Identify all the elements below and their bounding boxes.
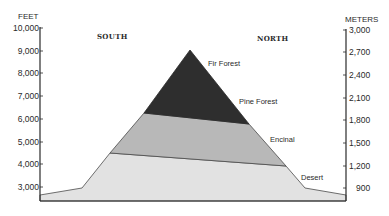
left-axis-title: FEET	[18, 12, 39, 21]
right-tick-label: 1,800	[349, 115, 371, 125]
fir-forest-label: Fir Forest	[208, 59, 241, 68]
left-tick-label: 6,000	[18, 114, 40, 124]
left-tick-label: 3,000	[18, 182, 40, 192]
desert-label: Desert	[301, 173, 324, 182]
left-tick-label: 9,000	[18, 46, 40, 56]
right-tick-label: 3,000	[349, 25, 371, 35]
south-label: SOUTH	[97, 32, 128, 41]
vegetation-zone-diagram: FEET METERS 10,000 9,000 8,000 7,000 6,0…	[0, 0, 389, 216]
north-label: NORTH	[257, 34, 289, 43]
right-tick-label: 1,500	[349, 138, 371, 148]
right-tick-label: 2,400	[349, 70, 371, 80]
right-tick-label: 1,200	[349, 161, 371, 171]
right-axis-title: METERS	[345, 15, 378, 24]
left-tick-label: 4,000	[18, 159, 40, 169]
right-tick-label: 900	[356, 183, 370, 193]
left-tick-label: 8,000	[18, 68, 40, 78]
pine-forest-label: Pine Forest	[239, 97, 278, 106]
encinal-label: Encinal	[270, 135, 295, 144]
left-tick-label: 5,000	[18, 137, 40, 147]
left-tick-label: 7,000	[18, 91, 40, 101]
right-tick-label: 2,100	[349, 93, 371, 103]
right-tick-label: 2,700	[349, 47, 371, 57]
left-tick-label: 10,000	[13, 23, 39, 33]
